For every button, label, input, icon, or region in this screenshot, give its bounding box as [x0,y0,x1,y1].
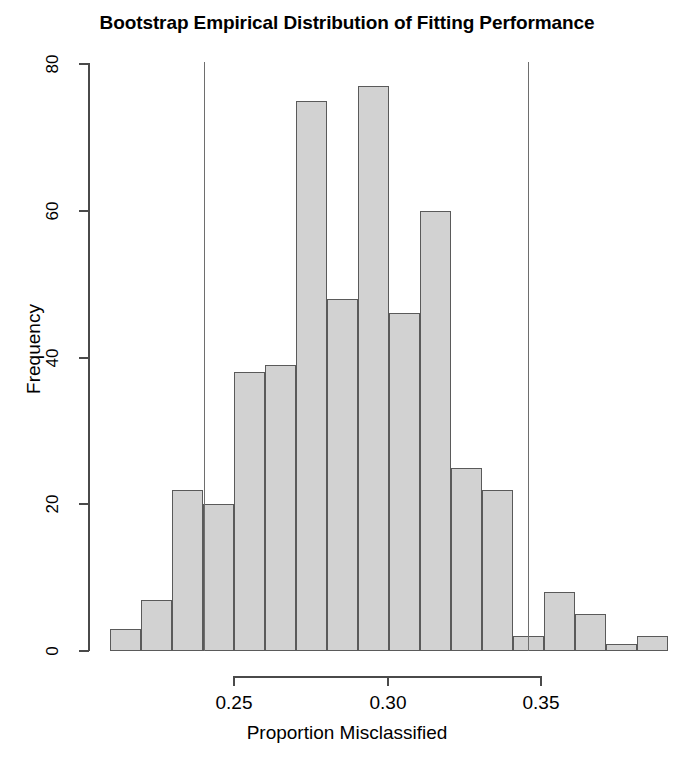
histogram-bar [482,490,513,651]
histogram-bar [451,468,482,651]
histogram-bar [110,629,141,651]
lower-confidence-bound [204,62,205,651]
histogram-bar [575,614,606,651]
y-axis-tick [79,357,89,359]
histogram-figure: Bootstrap Empirical Distribution of Fitt… [0,0,694,771]
upper-confidence-bound [528,62,529,651]
y-axis-tick [79,63,89,65]
histogram-bar [265,365,296,651]
y-axis-tick-label: 40 [43,336,63,380]
y-axis-tick-label: 0 [43,629,63,673]
x-axis-tick [233,676,235,686]
x-axis-title: Proportion Misclassified [0,722,694,744]
y-axis-tick [79,650,89,652]
x-axis-tick-label: 0.35 [506,692,576,714]
x-axis-tick [387,676,389,686]
histogram-bar [234,372,265,651]
histogram-bar [172,490,203,651]
histogram-bar [544,592,575,651]
y-axis-tick-label: 80 [43,42,63,86]
histogram-bar [637,636,668,651]
y-axis-tick-label: 60 [43,189,63,233]
x-axis-tick [540,676,542,686]
y-axis-tick [79,503,89,505]
plot-area: 020406080 Frequency 0.250.300.35 Proport… [0,0,694,771]
histogram-bar [389,313,420,651]
x-axis-tick-label: 0.25 [199,692,269,714]
histogram-bar [420,211,451,651]
histogram-bar [203,504,234,651]
histogram-bar [358,86,389,651]
histogram-bar [606,644,637,651]
y-axis-tick [79,210,89,212]
histogram-bar [296,101,327,651]
y-axis-tick-label: 20 [43,482,63,526]
x-axis-tick-label: 0.30 [353,692,423,714]
y-axis-title: Frequency [23,289,45,409]
histogram-bar [327,299,358,651]
histogram-bar [141,600,172,651]
